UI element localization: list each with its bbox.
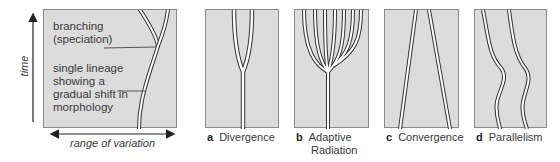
caption-convergence: cConvergence [386,131,464,144]
caption-title: Divergence [219,131,275,143]
lineage-text-2: showing a [53,75,128,88]
caption-title-line2: Radiation [311,144,357,157]
key-panel: branching (speciation) single lineage sh… [43,9,177,128]
panel-divergence [205,9,279,128]
lineage-text-1: single lineage [53,62,128,75]
adaptive-radiation-drawing [295,10,370,129]
speciation-text: (speciation) [53,33,112,46]
panel-adaptive-radiation [294,9,369,128]
caption-letter: b [296,131,303,143]
branching-annotation: branching (speciation) [53,20,112,46]
lineage-text-3: gradual shift in [53,88,128,101]
branching-leader-line [104,47,156,48]
caption-title: Convergence [398,131,463,143]
branching-text: branching [53,20,112,33]
time-axis-label: time [18,56,30,77]
caption-title: Parallelism [489,131,543,143]
divergence-drawing [206,10,280,129]
caption-divergence: aDivergence [207,131,275,144]
caption-letter: c [386,131,392,143]
range-of-variation-label: range of variation [70,137,155,149]
parallelism-drawing [475,10,548,129]
caption-title: Adaptive [309,131,352,143]
caption-parallelism: dParallelism [476,131,543,144]
convergence-drawing [385,10,460,129]
panel-convergence [384,9,459,128]
lineage-annotation: single lineage showing a gradual shift i… [53,62,128,114]
panel-parallelism [474,9,547,128]
lineage-text-4: morphology [53,101,128,114]
caption-letter: d [476,131,483,143]
caption-letter: a [207,131,213,143]
caption-adaptive-radiation: bAdaptive Radiation [296,131,357,157]
